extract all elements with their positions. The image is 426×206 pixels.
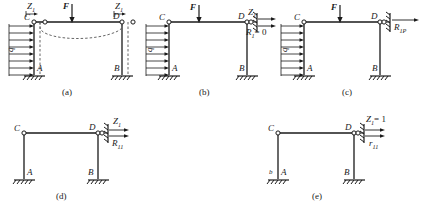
caption-a: (a) bbox=[62, 87, 72, 97]
label-force-f: F bbox=[331, 3, 337, 12]
hinge-c bbox=[22, 131, 26, 135]
panel-e-drawing bbox=[230, 103, 426, 206]
panel-b-drawing bbox=[145, 0, 280, 103]
label-node-b: B bbox=[114, 64, 120, 73]
caption-e: (e) bbox=[312, 191, 322, 201]
label-q: q bbox=[144, 48, 154, 53]
hinge-c bbox=[302, 20, 306, 24]
label-z1: Z1 bbox=[113, 117, 121, 128]
caption-c: (c) bbox=[342, 87, 352, 97]
label-node-c: C bbox=[14, 124, 20, 133]
panel-c-drawing bbox=[280, 0, 426, 103]
support-b bbox=[111, 76, 133, 80]
added-support-d bbox=[382, 12, 390, 32]
label-node-c: C bbox=[24, 13, 30, 22]
point-load-f bbox=[69, 4, 74, 23]
label-node-a: A bbox=[281, 168, 287, 177]
label-r11: R11 bbox=[112, 139, 123, 150]
label-node-a: A bbox=[307, 64, 313, 73]
panel-e: Z1= 1 r11 C D A b B (e) bbox=[230, 103, 426, 206]
label-r1: R1= 0 bbox=[246, 28, 266, 39]
label-node-d: D bbox=[113, 12, 120, 21]
hinge-c bbox=[32, 20, 36, 24]
label-node-d: D bbox=[371, 12, 378, 21]
label-node-c: C bbox=[159, 13, 165, 22]
panel-a: Z1 Z1 F q C D A B (a) bbox=[0, 0, 145, 103]
label-node-a: A bbox=[27, 168, 33, 177]
label-r11: r11 bbox=[369, 139, 378, 150]
hinge-d bbox=[120, 20, 124, 24]
support-a bbox=[293, 76, 315, 80]
label-node-c: C bbox=[268, 124, 274, 133]
label-q: q bbox=[5, 48, 15, 53]
label-node-b-small: b bbox=[269, 169, 273, 176]
point-load-f bbox=[337, 5, 342, 23]
label-q: q bbox=[279, 48, 289, 53]
z1-unit-arrow bbox=[365, 128, 385, 131]
hinge-d-right bbox=[131, 20, 135, 24]
support-a bbox=[158, 76, 180, 80]
r11-arrow bbox=[365, 134, 385, 137]
panel-c: R1P F q C D A B (c) bbox=[280, 0, 426, 103]
label-force-f: F bbox=[63, 2, 69, 11]
support-a bbox=[267, 180, 289, 184]
label-z1-unit: Z1= 1 bbox=[366, 115, 386, 126]
hinge-c bbox=[167, 20, 171, 24]
label-node-a: A bbox=[172, 64, 178, 73]
label-node-d: D bbox=[89, 123, 96, 132]
panel-b: Z1 R1= 0 F q C D A B (b) bbox=[145, 0, 280, 103]
support-b bbox=[369, 76, 391, 80]
label-node-b: B bbox=[372, 64, 378, 73]
label-node-c: C bbox=[294, 13, 300, 22]
point-load-f bbox=[196, 5, 201, 23]
panel-d: Z1 R11 C D A B (d) bbox=[0, 103, 230, 206]
label-node-a: A bbox=[37, 64, 43, 73]
z1-arrow bbox=[258, 17, 276, 20]
label-node-b: B bbox=[88, 168, 94, 177]
caption-b: (b) bbox=[199, 87, 210, 97]
added-support-d bbox=[100, 123, 108, 143]
support-a bbox=[23, 76, 45, 80]
label-node-b: B bbox=[344, 168, 350, 177]
caption-d: (d) bbox=[56, 191, 67, 201]
hinge-c-right bbox=[43, 20, 47, 24]
support-b bbox=[236, 76, 258, 80]
label-z1: Z1 bbox=[248, 8, 256, 19]
support-a bbox=[13, 180, 35, 184]
label-node-d: D bbox=[345, 123, 352, 132]
support-b bbox=[87, 180, 109, 184]
z1-arrow bbox=[109, 128, 129, 131]
hinge-c bbox=[276, 131, 280, 135]
label-node-d: D bbox=[238, 12, 245, 21]
panel-a-drawing bbox=[0, 0, 145, 103]
label-r1p: R1P bbox=[394, 23, 406, 34]
support-b bbox=[343, 180, 365, 184]
label-force-f: F bbox=[190, 3, 196, 12]
added-support-d bbox=[356, 123, 364, 143]
label-node-b: B bbox=[239, 64, 245, 73]
